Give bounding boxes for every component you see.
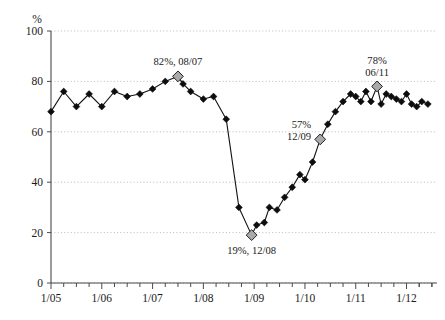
annotation: 82%, 08/07: [154, 56, 203, 67]
x-tick-label: 1/07: [142, 292, 163, 304]
y-tick-label: 100: [26, 25, 44, 37]
y-tick-label: 40: [32, 176, 44, 188]
y-tick-label: 60: [32, 126, 44, 138]
y-axis-unit-label: %: [32, 13, 42, 25]
y-tick-label: 0: [37, 277, 43, 289]
x-tick-label: 1/11: [346, 292, 366, 304]
annotation-text: 19%, 12/08: [227, 245, 276, 256]
annotation-text: 82%, 08/07: [154, 56, 203, 67]
x-tick-label: 1/10: [295, 292, 316, 304]
x-tick-label: 1/09: [244, 292, 265, 304]
x-tick-label: 1/12: [396, 292, 417, 304]
x-tick-label: 1/08: [193, 292, 214, 304]
annotation-text: 06/11: [365, 67, 389, 78]
chart-canvas: 020406080100 1/051/061/071/081/091/101/1…: [0, 0, 445, 320]
annotation-text: 12/09: [287, 131, 311, 142]
line-chart: 020406080100 1/051/061/071/081/091/101/1…: [0, 0, 445, 320]
annotation-text: 78%: [367, 55, 387, 66]
annotation: 19%, 12/08: [227, 245, 276, 256]
x-tick-label: 1/05: [41, 292, 62, 304]
y-tick-label: 20: [32, 227, 44, 239]
x-tick-label: 1/06: [92, 292, 113, 304]
y-tick-label: 80: [32, 75, 44, 87]
annotation: 78%06/11: [365, 55, 389, 78]
chart-background: [0, 0, 445, 320]
annotation-text: 57%: [292, 119, 312, 130]
